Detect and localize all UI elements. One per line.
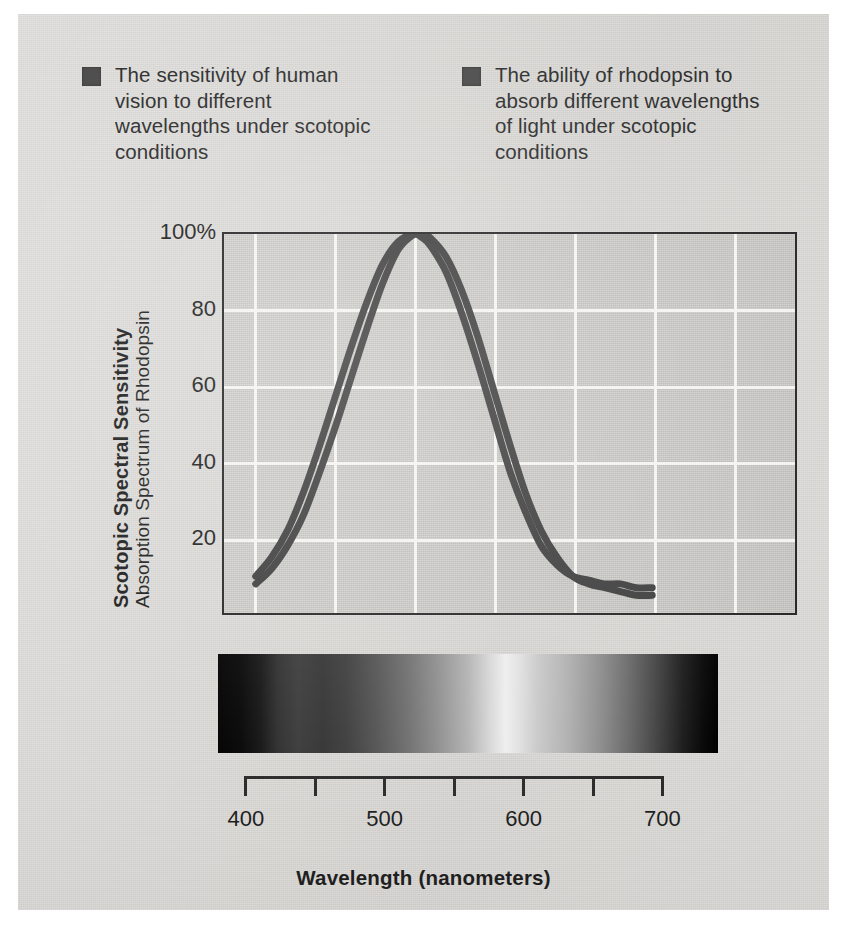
y-axis-tick-labels: 20406080100%	[136, 220, 216, 620]
legend-entry-label: The sensitivity of human vision to diffe…	[115, 62, 382, 164]
y-axis-title-primary: Scotopic Spectral Sensitivity	[110, 328, 133, 608]
legend-entry-rhodopsin-absorption: The ability of rhodopsin to absorb diffe…	[462, 62, 772, 164]
visible-spectrum-bar	[218, 654, 718, 753]
ruler-tick	[314, 776, 317, 796]
legend-entry-label: The ability of rhodopsin to absorb diffe…	[495, 62, 772, 164]
x-axis-title: Wavelength (nanometers)	[18, 866, 829, 890]
legend-swatch-icon	[462, 67, 481, 86]
curve-series-1	[256, 234, 653, 588]
y-axis-tick-label: 60	[192, 372, 216, 398]
legend-entry-scotopic-sensitivity: The sensitivity of human vision to diffe…	[82, 62, 382, 164]
ruler-tick	[453, 776, 456, 796]
curve-series-group	[224, 234, 795, 614]
y-axis-tick-label: 20	[192, 525, 216, 551]
x-axis-tick-label: 700	[644, 806, 681, 832]
x-axis-tick-label: 400	[227, 806, 264, 832]
ruler-tick	[661, 776, 664, 796]
ruler-tick	[592, 776, 595, 796]
y-axis-tick-label: 100%	[160, 219, 216, 245]
ruler-tick	[244, 776, 247, 796]
y-axis-tick-label: 40	[192, 449, 216, 475]
ruler-tick	[383, 776, 386, 796]
x-axis-ruler	[218, 776, 718, 802]
legend-swatch-icon	[82, 67, 101, 86]
y-axis-tick-label: 80	[192, 296, 216, 322]
x-axis-tick-labels: 400500600700	[218, 806, 718, 836]
ruler-tick	[522, 776, 525, 796]
x-axis-tick-label: 500	[366, 806, 403, 832]
figure-page: The sensitivity of human vision to diffe…	[0, 0, 847, 940]
plot-area	[222, 232, 797, 615]
x-axis-tick-label: 600	[505, 806, 542, 832]
figure-background: The sensitivity of human vision to diffe…	[18, 14, 829, 910]
